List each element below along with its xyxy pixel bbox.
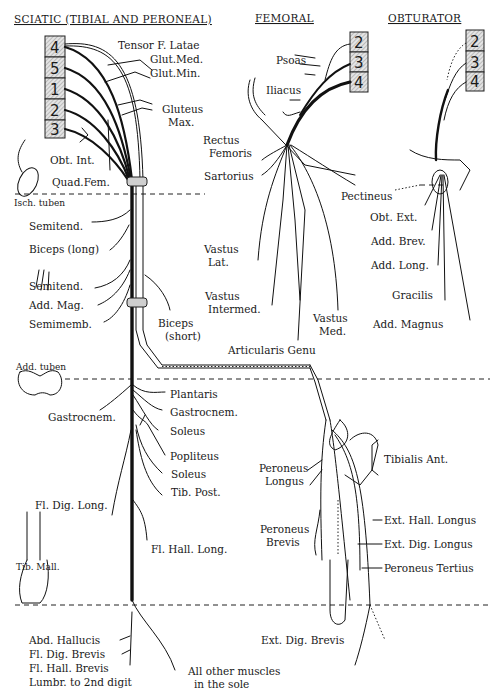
title-sciatic: SCIATIC (TIBIAL AND PERONEAL) (14, 13, 212, 25)
label-vastus-lat-1: Vastus (203, 243, 239, 255)
label-abd-hallucis: Abd. Hallucis (28, 634, 100, 646)
label-fl-dig-long: Fl. Dig. Long. (35, 499, 108, 511)
label-peroneus-brevis-1: Peroneus (260, 523, 309, 535)
label-semitend-1: Semitend. (29, 220, 83, 232)
label-gastrocnem-lat: Gastrocnem. (48, 411, 116, 423)
label-max: Max. (168, 116, 194, 128)
label-semitend-2: Semitend. (29, 280, 83, 292)
obturator-root-l3: 3 (470, 54, 480, 72)
label-vastus-med-1: Vastus (312, 312, 348, 324)
label-peroneus-brevis-2: Brevis (266, 536, 300, 548)
root-l5: 5 (50, 60, 60, 78)
label-pectineus: Pectineus (341, 190, 392, 202)
label-vastus-lat-2: Lat. (208, 256, 229, 268)
label-glut-med: Glut.Med. (150, 53, 203, 65)
obturator-nerve (410, 43, 470, 320)
label-soleus-2: Soleus (171, 468, 206, 480)
label-isch-tuber: Isch. tuben (14, 198, 65, 208)
femoral-root-l3: 3 (354, 54, 364, 72)
femoral-root-l2: 2 (354, 34, 364, 52)
label-soleus-1: Soleus (170, 425, 205, 437)
label-gracilis: Gracilis (392, 289, 433, 301)
label-all-other-muscles: All other muscles (187, 665, 280, 677)
title-femoral: FEMORAL (255, 12, 314, 24)
femoral-root-l4: 4 (354, 74, 364, 92)
label-gastrocnem-med: Gastrocnem. (170, 406, 238, 418)
root-s3: 3 (50, 121, 60, 139)
label-tib-post: Tib. Post. (171, 486, 221, 498)
label-fl-dig-brevis: Fl. Dig. Brevis (29, 648, 105, 660)
peroneal-nerve (308, 420, 385, 665)
label-plantaris: Plantaris (170, 388, 218, 400)
label-add-magnus: Add. Magnus (372, 318, 443, 330)
obturator-root-l4: 4 (470, 73, 480, 91)
label-vastus-intermed-2: Intermed. (208, 303, 261, 315)
label-lumbr-2nd-digit: Lumbr. to 2nd digit (29, 676, 132, 688)
label-tib-mall: Tib. Mall. (16, 562, 60, 572)
label-add-brev: Add. Brev. (370, 235, 426, 247)
label-quad-fem: Quad.Fem. (52, 176, 110, 188)
root-s1: 1 (50, 81, 60, 99)
label-fl-hall-brevis: Fl. Hall. Brevis (29, 662, 109, 674)
label-ext-dig-longus: Ext. Dig. Longus (384, 538, 473, 550)
label-rectus: Rectus (203, 134, 239, 146)
label-add-tuber: Add. tuben (15, 362, 66, 372)
label-tensor-f-latae: Tensor F. Latae (118, 39, 199, 51)
sciatic-root-box: 4 5 1 2 3 (45, 36, 65, 139)
label-obt-ext: Obt. Ext. (370, 211, 417, 223)
label-peroneus-longus-2: Longus (265, 475, 304, 487)
label-biceps-short-1: Biceps (158, 317, 193, 329)
label-biceps-long: Biceps (long) (29, 243, 99, 255)
label-add-mag: Add. Mag. (28, 299, 84, 311)
title-obturator: OBTURATOR (388, 12, 462, 24)
label-gluteus: Gluteus (162, 103, 203, 115)
label-peroneus-tertius: Peroneus Tertius (384, 562, 474, 574)
label-fl-hall-long: Fl. Hall. Long. (151, 543, 227, 555)
label-articularis-genu: Articularis Genu (227, 344, 316, 356)
femoral-nerve (248, 44, 355, 340)
label-tibialis-ant: Tibialis Ant. (384, 453, 448, 465)
label-iliacus: Iliacus (266, 84, 301, 96)
label-popliteus: Popliteus (170, 450, 219, 462)
label-obt-int: Obt. Int. (50, 154, 95, 166)
obturator-root-l2: 2 (470, 33, 480, 51)
label-femoris: Femoris (209, 147, 252, 159)
label-sartorius: Sartorius (204, 170, 254, 182)
root-l4: 4 (50, 39, 60, 57)
label-add-long: Add. Long. (370, 259, 429, 271)
label-vastus-med-2: Med. (319, 325, 346, 337)
nerve-innervation-diagram: SCIATIC (TIBIAL AND PERONEAL) FEMORAL OB… (0, 0, 502, 692)
label-biceps-short-2: (short) (165, 330, 201, 342)
root-s2: 2 (50, 102, 60, 120)
obturator-root-box: 2 3 4 (466, 30, 484, 91)
label-in-the-sole: in the sole (194, 678, 249, 690)
label-ext-hall-longus: Ext. Hall. Longus (384, 514, 476, 526)
label-vastus-intermed-1: Vastus (204, 290, 240, 302)
label-peroneus-longus-1: Peroneus (259, 462, 308, 474)
label-semimemb: Semimemb. (29, 318, 92, 330)
label-psoas: Psoas (276, 54, 306, 66)
femoral-root-box: 2 3 4 (350, 32, 368, 92)
label-glut-min: Glut.Min. (150, 67, 200, 79)
label-ext-dig-brevis: Ext. Dig. Brevis (261, 634, 344, 646)
